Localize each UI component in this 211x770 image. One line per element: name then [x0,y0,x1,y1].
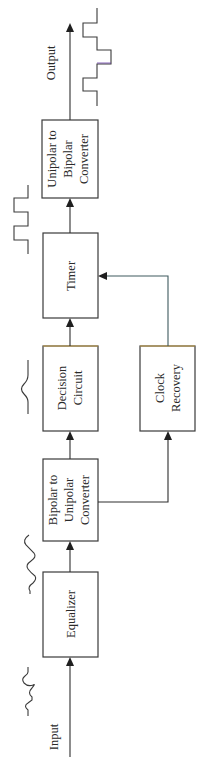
bipolar-to-unipolar-label-line2: Unipolar [62,477,76,522]
unipolar-to-bipolar-label-line1: Unipolar to [45,130,59,187]
decision-circuit-label-line1: Decision [55,365,69,410]
equalizer-label: Equalizer [64,589,78,638]
input-wire [66,657,74,757]
wire-bipolar-unipolar-to-decision [66,431,74,459]
arrowhead-icon [66,198,74,207]
output-wire [66,23,74,120]
arrowhead-icon [66,431,74,440]
bipolar-to-unipolar-label-line1: Bipolar to [46,475,60,525]
wire-decision-to-timer [66,318,74,346]
input-waveform-icon [23,667,35,716]
clock-recovery-label-line1: Clock [153,372,167,403]
unipolar-to-bipolar-label-line2: Bipolar [61,139,75,177]
unipolar-pulse-waveform-icon [22,360,29,414]
wire-timer-to-unipolar-bipolar [66,198,74,233]
timer-label: Timer [64,260,78,291]
block-diagram: Input Equalizer Bipolar to Unipolar Conv… [0,0,211,770]
arrowhead-icon [66,318,74,327]
arrowhead-icon [66,657,74,666]
unipolar-square-waveform-icon [14,185,28,254]
arrowhead-icon [66,23,74,32]
unipolar-to-bipolar-label-line3: Converter [77,133,91,184]
decision-circuit-label-line2: Circuit [71,370,85,405]
wire-bipolar-unipolar-to-clock-recovery [98,431,172,502]
equalized-waveform-icon [25,535,36,594]
bipolar-square-waveform-icon [83,8,111,106]
arrowhead-icon [98,272,107,280]
wire-clock-recovery-to-timer [98,272,168,346]
bipolar-to-unipolar-label-line3: Converter [78,474,92,525]
arrowhead-icon [164,431,172,440]
input-label: Input [47,723,61,750]
arrowhead-icon [66,541,74,550]
wire-equalizer-to-bipolar-unipolar [66,541,74,572]
clock-recovery-block [140,346,195,431]
output-label: Output [44,45,58,80]
clock-recovery-label-line2: Recovery [169,363,183,412]
